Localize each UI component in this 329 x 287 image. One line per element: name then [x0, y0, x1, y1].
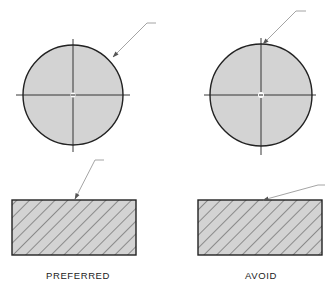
preferred-circle-leader-line [113, 23, 156, 57]
preferred-circle-view [16, 23, 156, 152]
avoid-rectangle-leader-line [263, 185, 325, 200]
leader-line-placement-diagram [0, 0, 329, 287]
avoid-section-view [198, 185, 325, 255]
avoid-circle-view [204, 11, 316, 155]
preferred-hatched-rectangle [12, 200, 136, 255]
avoid-circle-leader-line [263, 11, 306, 44]
avoid-hatched-rectangle [198, 200, 322, 255]
preferred-label: PREFERRED [18, 270, 138, 281]
preferred-section-view [12, 160, 136, 255]
preferred-rectangle-leader-line [75, 160, 104, 199]
avoid-label: AVOID [201, 270, 321, 281]
